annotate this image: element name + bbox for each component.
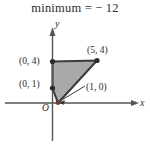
point-label-1-0: (1, 0) — [86, 82, 107, 92]
point-label-0-4: (0, 4) — [19, 56, 40, 66]
x-axis-label: x — [140, 97, 144, 108]
y-axis-label: y — [55, 18, 59, 29]
origin-label: O — [42, 103, 49, 113]
vertex-dot-5-4 — [94, 58, 99, 63]
x-axis-arrowhead — [131, 100, 139, 106]
point-label-0-1: (0, 1) — [19, 79, 40, 89]
vertex-dot-0-1 — [50, 85, 55, 90]
point-label-5-4: (5, 4) — [87, 45, 108, 55]
vertex-dot-1-0 — [56, 100, 61, 105]
vertex-dot-0-4 — [50, 59, 55, 64]
minimum-value-figure: minimum = − 12 y x O (0, 4) (0, 1) (5, 4… — [0, 0, 150, 154]
coordinate-plot — [0, 0, 150, 154]
